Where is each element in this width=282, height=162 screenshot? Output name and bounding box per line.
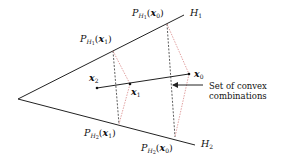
x2-sub: 2 xyxy=(95,77,99,84)
segment-projections-x0 xyxy=(167,24,175,137)
diagram-canvas: H1 H2 PH1(x0) PH1(x1) PH2(x1) PH2(x0) x0… xyxy=(0,0,282,162)
segment-projections-x1 xyxy=(113,51,119,124)
annotation-line-2: combinations xyxy=(209,91,267,101)
label-h2: H2 xyxy=(201,139,213,150)
point-x1 xyxy=(129,83,132,86)
point-x0 xyxy=(188,73,191,76)
annotation-convex-combinations: Set of convex combinations xyxy=(209,81,267,101)
h2-sub: 2 xyxy=(209,143,213,150)
x-index: 0 xyxy=(156,12,160,19)
x-index: 1 xyxy=(104,38,108,45)
label-h1: H1 xyxy=(190,8,202,19)
h-index: 2 xyxy=(96,134,99,140)
x1-sub: 1 xyxy=(137,91,141,98)
h-index: 1 xyxy=(92,40,95,46)
annotation-line-1: Set of convex xyxy=(209,81,267,91)
point-x2 xyxy=(96,87,99,90)
label-projection-h1-x1: PH1(x1) xyxy=(80,34,112,46)
h-index: 2 xyxy=(153,149,156,155)
red-x0-to-ph2 xyxy=(175,74,189,137)
label-x2: x2 xyxy=(89,73,99,84)
label-projection-h1-x0: PH1(x0) xyxy=(132,8,164,20)
label-x1: x1 xyxy=(131,87,141,98)
hyperplane-h1-line xyxy=(18,15,184,99)
label-projection-h2-x1: PH2(x1) xyxy=(84,128,116,140)
red-x1-to-ph2 xyxy=(119,84,130,124)
label-projection-h2-x0: PH2(x0) xyxy=(141,143,173,155)
h-index: 1 xyxy=(144,14,147,20)
x0-sub: 0 xyxy=(200,73,204,80)
label-x0: x0 xyxy=(194,69,204,80)
x-index: 1 xyxy=(108,132,112,139)
x-index: 0 xyxy=(165,147,169,154)
h1-sub: 1 xyxy=(198,12,202,19)
iterate-path xyxy=(97,74,189,88)
